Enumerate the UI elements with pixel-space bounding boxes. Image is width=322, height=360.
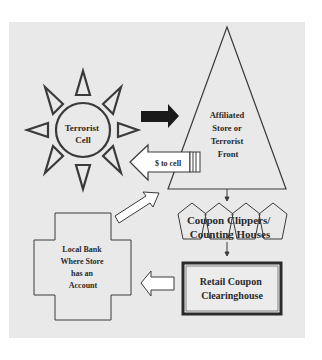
store-label-3: Terrorist <box>211 136 244 146</box>
bank-label-4: Account <box>69 281 98 290</box>
clearinghouse-label-2: Clearinghouse <box>201 290 263 301</box>
terrorist-cell-label-2: Cell <box>75 135 91 145</box>
node-clearinghouse <box>183 263 281 314</box>
store-label-2: Store or <box>212 123 242 133</box>
terrorist-cell-label-1: Terrorist <box>65 123 100 133</box>
bank-label-2: Where Store <box>60 257 103 266</box>
clippers-label-2: Counting Houses <box>190 228 271 240</box>
clippers-label-1: Coupon Clippers/ <box>187 214 271 226</box>
diagram-canvas: Terrorist Cell Affiliated Store or Terro… <box>0 0 322 360</box>
store-label-1: Affiliated <box>210 110 245 120</box>
money-to-cell-label: $ to cell <box>155 159 182 168</box>
bank-label-1: Local Bank <box>62 245 102 254</box>
store-label-4: Front <box>218 149 239 159</box>
clearinghouse-label-1: Retail Coupon <box>200 276 262 287</box>
bank-label-3: has an <box>71 269 94 278</box>
